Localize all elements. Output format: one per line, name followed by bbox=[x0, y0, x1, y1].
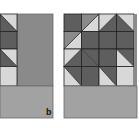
right-edge-strip bbox=[134, 14, 137, 86]
solid-square bbox=[82, 32, 100, 50]
grid-cell bbox=[64, 49, 82, 67]
solid-square bbox=[117, 32, 135, 50]
solid-square bbox=[0, 32, 17, 50]
strip-cell bbox=[0, 67, 17, 87]
grid-cell bbox=[99, 32, 117, 50]
grid-cell bbox=[117, 32, 135, 50]
grid-cell bbox=[82, 49, 100, 67]
panel-label: b bbox=[46, 107, 52, 117]
quilt-figure: b bbox=[0, 0, 139, 128]
solid-square bbox=[117, 67, 135, 87]
grid-cell bbox=[82, 14, 100, 32]
grid-cell bbox=[99, 14, 117, 32]
grid-cell bbox=[117, 49, 135, 67]
grid-cell bbox=[64, 67, 82, 87]
bottom-block bbox=[64, 86, 137, 118]
grid-cell bbox=[99, 67, 117, 87]
grid-cell bbox=[64, 14, 82, 32]
grid-cell bbox=[82, 67, 100, 87]
left-panel bbox=[0, 14, 53, 118]
strip-cell bbox=[0, 49, 17, 67]
solid-square bbox=[0, 67, 17, 87]
right-panel bbox=[64, 14, 137, 118]
grid-cell bbox=[117, 14, 135, 32]
grid-cell bbox=[82, 32, 100, 50]
grid-cell bbox=[117, 67, 135, 87]
strip-cell bbox=[0, 14, 17, 32]
grid-cell bbox=[99, 49, 117, 67]
main-block bbox=[17, 14, 53, 86]
solid-square bbox=[99, 49, 117, 67]
strip-cell bbox=[0, 32, 17, 50]
solid-square bbox=[82, 67, 100, 87]
grid-cell bbox=[64, 32, 82, 50]
solid-square bbox=[64, 14, 82, 32]
solid-square bbox=[99, 32, 117, 50]
